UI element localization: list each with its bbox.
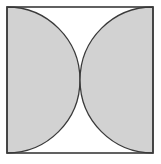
geometry-figure-svg bbox=[0, 0, 161, 164]
figure-container bbox=[0, 0, 161, 164]
